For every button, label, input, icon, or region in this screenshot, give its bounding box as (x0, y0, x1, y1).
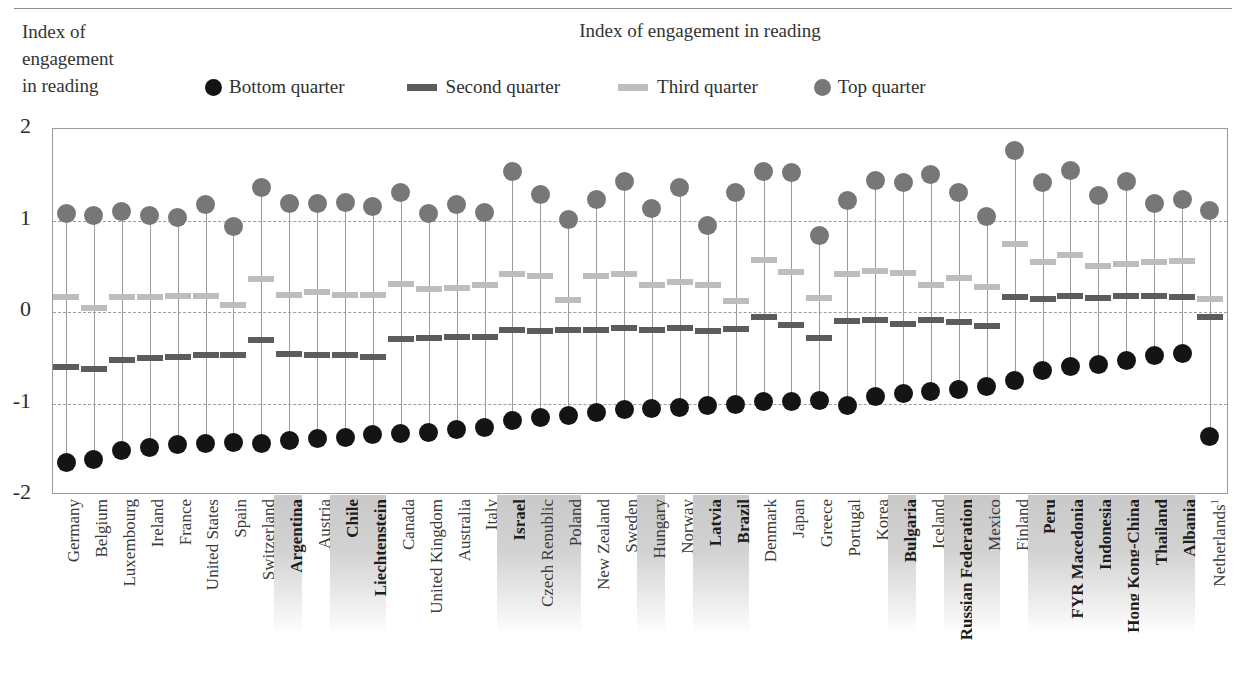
x-axis-label-column: France (163, 495, 191, 694)
top-quarter-marker (559, 210, 578, 229)
stem-line (233, 227, 234, 443)
top-quarter-marker (140, 206, 159, 225)
second-quarter-marker (388, 336, 414, 342)
x-axis-label-column: Netherlands1 (1195, 495, 1223, 694)
y-axis-tick-label: 2 (0, 115, 31, 137)
second-quarter-marker (1113, 293, 1139, 299)
bottom-quarter-marker (559, 406, 578, 425)
stem-line (401, 192, 402, 434)
third-quarter-marker (165, 293, 191, 299)
second-quarter-marker (1141, 293, 1167, 299)
stem-line (568, 220, 569, 416)
x-axis-label-column: United States (191, 495, 219, 694)
second-quarter-marker (81, 366, 107, 372)
second-quarter-marker (555, 327, 581, 333)
second-quarter-marker (1197, 314, 1223, 320)
stem-line (764, 171, 765, 402)
third-quarter-marker (1197, 296, 1223, 302)
stem-line (1154, 203, 1155, 356)
top-quarter-marker (224, 217, 243, 236)
bottom-quarter-marker (977, 377, 996, 396)
x-axis-label-column: Israel (497, 495, 525, 694)
second-quarter-dash-icon (407, 84, 437, 91)
second-quarter-marker (1002, 294, 1028, 300)
x-axis-label-column: Australia (442, 495, 470, 694)
top-quarter-marker (642, 199, 661, 218)
stem-line (652, 209, 653, 409)
third-quarter-marker (583, 273, 609, 279)
stem-line (261, 188, 262, 444)
third-quarter-marker (472, 282, 498, 288)
second-quarter-marker (332, 352, 358, 358)
third-quarter-marker (1169, 258, 1195, 264)
third-quarter-marker (751, 257, 777, 263)
top-quarter-marker (615, 172, 634, 191)
top-quarter-marker (531, 185, 550, 204)
top-quarter-marker (587, 190, 606, 209)
bottom-quarter-marker (782, 392, 801, 411)
third-quarter-marker (1141, 259, 1167, 265)
second-quarter-marker (165, 354, 191, 360)
second-quarter-marker (193, 352, 219, 358)
x-axis-label-column: Mexico (972, 495, 1000, 694)
x-axis-label-column: Russian Federation (944, 495, 972, 694)
x-axis-label-column: Canada (386, 495, 414, 694)
x-axis-label-column: Luxembourg (107, 495, 135, 694)
stem-line (624, 181, 625, 410)
stem-line (150, 216, 151, 447)
bottom-quarter-marker (838, 396, 857, 415)
bottom-quarter-marker (57, 453, 76, 472)
stem-line (1182, 199, 1183, 353)
bottom-quarter-marker (810, 391, 829, 410)
third-quarter-marker (81, 305, 107, 311)
top-quarter-marker (754, 162, 773, 181)
bottom-quarter-marker (587, 403, 606, 422)
bottom-quarter-marker (1117, 351, 1136, 370)
chart-legend: Bottom quarter Second quarter Third quar… (205, 76, 1155, 98)
third-quarter-marker (806, 295, 832, 301)
third-quarter-marker (1030, 259, 1056, 265)
stem-line (1043, 183, 1044, 371)
x-axis-label-column: Liechtenstein (358, 495, 386, 694)
top-quarter-marker (1117, 172, 1136, 191)
legend-label-second-quarter: Second quarter (446, 76, 560, 98)
stem-line (1098, 196, 1099, 364)
second-quarter-marker (834, 318, 860, 324)
legend-item-top-quarter[interactable]: Top quarter (814, 76, 926, 98)
y-axis-tick-label: 1 (0, 207, 31, 229)
second-quarter-marker (444, 334, 470, 340)
x-axis-label-column: Belgium (79, 495, 107, 694)
bottom-quarter-marker (84, 450, 103, 469)
third-quarter-marker (695, 282, 721, 288)
third-quarter-marker (1085, 263, 1111, 269)
x-axis-label-column: Switzerland (246, 495, 274, 694)
second-quarter-marker (499, 327, 525, 333)
second-quarter-marker (360, 354, 386, 360)
x-axis-label-column: Chile (330, 495, 358, 694)
top-quarter-marker (1089, 186, 1108, 205)
top-quarter-marker (168, 208, 187, 227)
second-quarter-marker (751, 314, 777, 320)
third-quarter-marker (137, 294, 163, 300)
stem-line (540, 195, 541, 417)
second-quarter-marker (220, 352, 246, 358)
gridline (53, 312, 1227, 313)
second-quarter-marker (1169, 294, 1195, 300)
bottom-quarter-marker (336, 428, 355, 447)
top-quarter-marker (782, 163, 801, 182)
bottom-quarter-marker (894, 384, 913, 403)
legend-item-bottom-quarter[interactable]: Bottom quarter (205, 76, 345, 98)
second-quarter-marker (611, 325, 637, 331)
third-quarter-marker (1057, 252, 1083, 258)
x-axis-label-column: Poland (553, 495, 581, 694)
x-axis-label-column: Argentina (274, 495, 302, 694)
top-quarter-marker (921, 165, 940, 184)
third-quarter-marker (974, 284, 1000, 290)
top-quarter-marker (977, 207, 996, 226)
x-axis-label: Netherlands1 (1209, 499, 1228, 587)
legend-label-top-quarter: Top quarter (838, 76, 926, 98)
legend-item-third-quarter[interactable]: Third quarter (618, 76, 758, 98)
x-axis-label-column: Portugal (832, 495, 860, 694)
legend-item-second-quarter[interactable]: Second quarter (407, 76, 560, 98)
x-axis-label-column: Italy (470, 495, 498, 694)
